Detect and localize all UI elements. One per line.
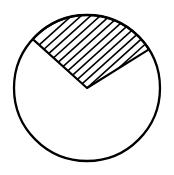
geometry-diagram: Circle with shaded hatched sector A plai… [0, 0, 174, 175]
figure-root: Circle with shaded hatched sector A plai… [0, 0, 174, 175]
